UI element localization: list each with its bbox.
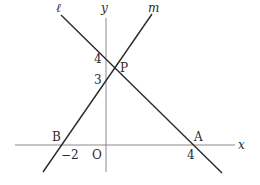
x-axis-label: x (238, 138, 245, 152)
point-b-label: B (52, 130, 61, 144)
y-tick-3: 3 (94, 73, 102, 87)
line-m-label: m (148, 1, 159, 15)
coordinate-diagram: ℓ y m x 4 3 P B −2 O A 4 (0, 0, 260, 185)
line-l (61, 15, 222, 173)
point-a-label: A (193, 130, 203, 144)
x-tick-neg2: −2 (61, 148, 79, 162)
y-axis-label: y (100, 1, 108, 15)
y-tick-4: 4 (94, 52, 102, 66)
line-l-label: ℓ (56, 1, 61, 15)
origin-label: O (92, 148, 102, 162)
x-tick-4: 4 (187, 148, 195, 162)
point-p-label: P (120, 61, 128, 75)
